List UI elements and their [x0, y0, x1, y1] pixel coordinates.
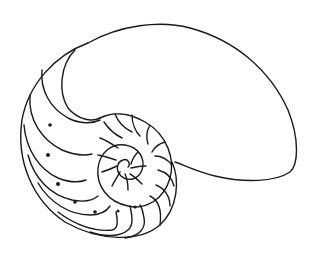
nautilus-illustration: Nautilus shell line drawing [0, 0, 310, 257]
nautilus-shell-drawing [0, 0, 310, 257]
shell-outline [88, 24, 297, 180]
shell-outer-whorl [21, 43, 177, 237]
